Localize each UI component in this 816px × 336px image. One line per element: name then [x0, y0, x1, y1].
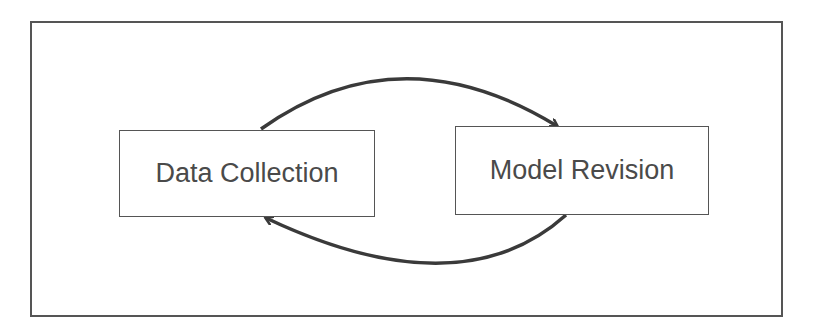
- node-label-model-revision: Model Revision: [490, 155, 675, 186]
- arrow-model-to-data: [266, 215, 566, 263]
- node-model-revision: Model Revision: [455, 126, 709, 215]
- node-data-collection: Data Collection: [119, 130, 375, 217]
- node-label-data-collection: Data Collection: [155, 158, 338, 189]
- arrow-data-to-model: [261, 79, 557, 129]
